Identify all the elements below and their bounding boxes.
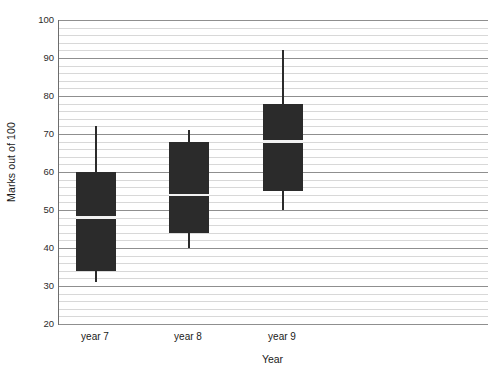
minor-gridline (59, 271, 488, 272)
major-gridline (59, 20, 488, 21)
minor-gridline (59, 202, 488, 203)
minor-gridline (59, 73, 488, 74)
box-iqr-rect (76, 172, 116, 271)
lower-whisker (282, 191, 284, 210)
minor-gridline (59, 233, 488, 234)
y-axis-tick-label: 20 (28, 319, 54, 329)
x-axis-tick-label: year 9 (268, 331, 296, 342)
lower-whisker (95, 271, 97, 282)
major-gridline (59, 58, 488, 59)
y-axis-tick-label: 70 (28, 129, 54, 139)
boxplot-chart: Marks out of 100 2030405060708090100 yea… (0, 0, 502, 378)
minor-gridline (59, 50, 488, 51)
y-axis-tick-label: 100 (28, 15, 54, 25)
major-gridline (59, 96, 488, 97)
major-gridline (59, 210, 488, 211)
minor-gridline (59, 316, 488, 317)
y-axis-tick-label: 90 (28, 53, 54, 63)
minor-gridline (59, 195, 488, 196)
y-axis-tick-labels: 2030405060708090100 (26, 0, 54, 378)
x-axis-tick-label: year 8 (174, 331, 202, 342)
upper-whisker (282, 50, 284, 103)
minor-gridline (59, 81, 488, 82)
plot-area (58, 20, 488, 325)
minor-gridline (59, 218, 488, 219)
box-iqr-rect (263, 104, 303, 191)
major-gridline (59, 248, 488, 249)
box-iqr-rect (169, 142, 209, 233)
minor-gridline (59, 240, 488, 241)
minor-gridline (59, 301, 488, 302)
minor-gridline (59, 66, 488, 67)
upper-whisker (95, 126, 97, 172)
x-axis-title: Year (58, 353, 487, 365)
x-axis-title-label: Year (262, 353, 283, 365)
major-gridline (59, 324, 488, 325)
minor-gridline (59, 278, 488, 279)
y-axis-tick-label: 80 (28, 91, 54, 101)
upper-whisker (188, 130, 190, 141)
median-line (169, 194, 209, 197)
minor-gridline (59, 28, 488, 29)
minor-gridline (59, 35, 488, 36)
y-axis-tick-label: 60 (28, 167, 54, 177)
x-axis-tick-label: year 7 (81, 331, 109, 342)
median-line (76, 216, 116, 219)
minor-gridline (59, 309, 488, 310)
minor-gridline (59, 294, 488, 295)
lower-whisker (188, 233, 190, 248)
x-axis-tick-labels: year 7year 8year 9 (58, 331, 487, 347)
minor-gridline (59, 225, 488, 226)
median-line (263, 140, 303, 143)
minor-gridline (59, 263, 488, 264)
y-axis-title-label: Marks out of 100 (5, 122, 17, 202)
minor-gridline (59, 43, 488, 44)
y-axis-title: Marks out of 100 (0, 0, 22, 324)
y-axis-tick-label: 40 (28, 243, 54, 253)
minor-gridline (59, 88, 488, 89)
y-axis-tick-label: 50 (28, 205, 54, 215)
major-gridline (59, 286, 488, 287)
minor-gridline (59, 256, 488, 257)
y-axis-tick-label: 30 (28, 281, 54, 291)
